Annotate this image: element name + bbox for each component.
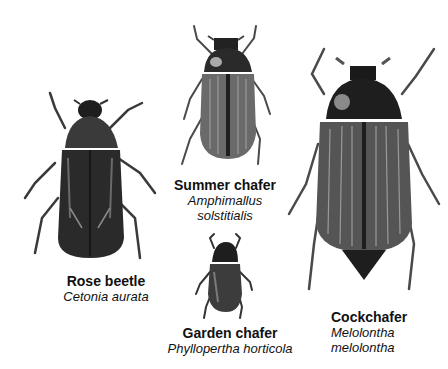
cockchafer-illustration xyxy=(284,44,444,294)
rose-beetle-common-name: Rose beetle xyxy=(40,274,172,289)
rose-beetle-scientific-name: Cetonia aurata xyxy=(40,289,172,304)
rose-beetle-illustration xyxy=(10,88,160,268)
cockchafer-common-name: Cockchafer xyxy=(331,310,441,325)
summer-chafer-scientific-name-line2: solstitialis xyxy=(160,208,290,223)
garden-chafer-scientific-name: Phyllopertha horticola xyxy=(144,341,316,356)
garden-chafer-common-name: Garden chafer xyxy=(144,326,316,341)
cockchafer-scientific-name-line1: Melolontha xyxy=(331,325,441,340)
summer-chafer-caption: Summer chafer Amphimallus solstitialis xyxy=(160,178,290,223)
summer-chafer-scientific-name-line1: Amphimallus xyxy=(160,193,290,208)
cockchafer-scientific-name-line2: melolontha xyxy=(331,340,441,355)
summer-chafer-common-name: Summer chafer xyxy=(160,178,290,193)
garden-chafer-caption: Garden chafer Phyllopertha horticola xyxy=(144,326,316,356)
summer-chafer-illustration xyxy=(172,24,282,169)
garden-chafer-illustration xyxy=(192,232,258,320)
cockchafer-caption: Cockchafer Melolontha melolontha xyxy=(331,310,441,355)
rose-beetle-caption: Rose beetle Cetonia aurata xyxy=(40,274,172,304)
